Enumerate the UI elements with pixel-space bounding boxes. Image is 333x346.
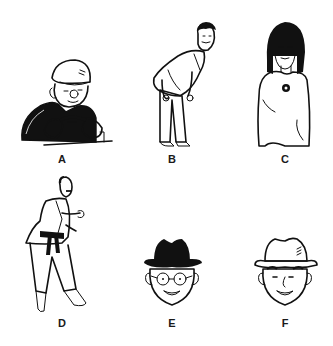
figure-f: F <box>223 173 333 346</box>
figure-a: A <box>0 0 120 170</box>
figure-label: D <box>52 317 72 329</box>
figure-b: B <box>110 0 230 170</box>
figure-c: C <box>223 0 333 170</box>
woman-illustration <box>223 0 333 170</box>
cap-driver-illustration <box>0 0 120 170</box>
figure-label: A <box>52 153 72 165</box>
figure-e: E <box>110 173 230 346</box>
figure-d: D <box>0 173 120 346</box>
figure-label: C <box>275 153 295 165</box>
figure-label: E <box>162 317 182 329</box>
bending-man-illustration <box>110 0 230 170</box>
figure-label: B <box>162 153 182 165</box>
figure-label: F <box>275 317 295 329</box>
